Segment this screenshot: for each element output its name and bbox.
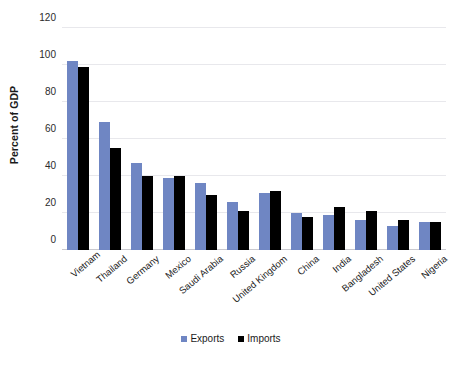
legend-swatch-icon	[238, 336, 244, 342]
bar-group	[323, 28, 344, 250]
bar-group	[99, 28, 120, 250]
legend-item[interactable]: Imports	[238, 333, 280, 344]
bar-group	[131, 28, 152, 250]
y-axis-tick-label: 60	[30, 123, 56, 134]
bar-group	[195, 28, 216, 250]
bar-exports	[419, 222, 430, 250]
bar-group	[163, 28, 184, 250]
chart-legend: ExportsImports	[0, 333, 462, 344]
bar-imports	[302, 217, 313, 250]
bar-imports	[142, 176, 153, 250]
y-axis-tick-label: 40	[30, 160, 56, 171]
bar-imports	[78, 67, 89, 250]
bar-exports	[99, 122, 110, 250]
bar-exports	[131, 163, 142, 250]
y-axis-title-text: Percent of GDP	[8, 86, 20, 164]
y-axis-tick-label: 0	[30, 234, 56, 245]
bar-exports	[291, 213, 302, 250]
bar-group	[67, 28, 88, 250]
bars-layer	[62, 28, 446, 250]
bar-imports	[398, 220, 409, 250]
bar-imports	[174, 176, 185, 250]
bar-exports	[259, 193, 270, 250]
bar-group	[419, 28, 440, 250]
bar-group	[355, 28, 376, 250]
y-axis-tick-label: 80	[30, 86, 56, 97]
legend-item[interactable]: Exports	[181, 333, 224, 344]
bar-group	[227, 28, 248, 250]
bar-group	[259, 28, 280, 250]
bar-chart: Percent of GDP 020406080100120 VietnamTh…	[0, 0, 462, 365]
y-axis-tick-label: 20	[30, 197, 56, 208]
x-axis-tick-label: Vietnam	[69, 253, 98, 279]
bar-imports	[110, 148, 121, 250]
bar-imports	[270, 191, 281, 250]
bar-group	[387, 28, 408, 250]
bar-imports	[334, 207, 345, 250]
bar-exports	[387, 226, 398, 250]
bar-imports	[430, 222, 441, 250]
bar-exports	[67, 61, 78, 250]
bar-exports	[227, 202, 238, 250]
bar-imports	[238, 211, 249, 250]
bar-exports	[355, 220, 366, 250]
plot-area	[62, 28, 446, 250]
y-axis-tick-labels: 020406080100120	[28, 28, 58, 250]
bar-exports	[195, 183, 206, 250]
y-axis-tick-label: 120	[30, 12, 56, 23]
bar-exports	[323, 215, 334, 250]
bar-group	[291, 28, 312, 250]
x-axis-tick-labels: VietnamThailandGermanyMexicoSaudi Arabia…	[62, 250, 446, 325]
legend-swatch-icon	[181, 336, 187, 342]
bar-exports	[163, 178, 174, 250]
legend-label: Imports	[247, 333, 280, 344]
y-axis-title: Percent of GDP	[2, 0, 26, 250]
bar-imports	[366, 211, 377, 250]
legend-label: Exports	[190, 333, 224, 344]
bar-imports	[206, 195, 217, 251]
y-axis-tick-label: 100	[30, 49, 56, 60]
